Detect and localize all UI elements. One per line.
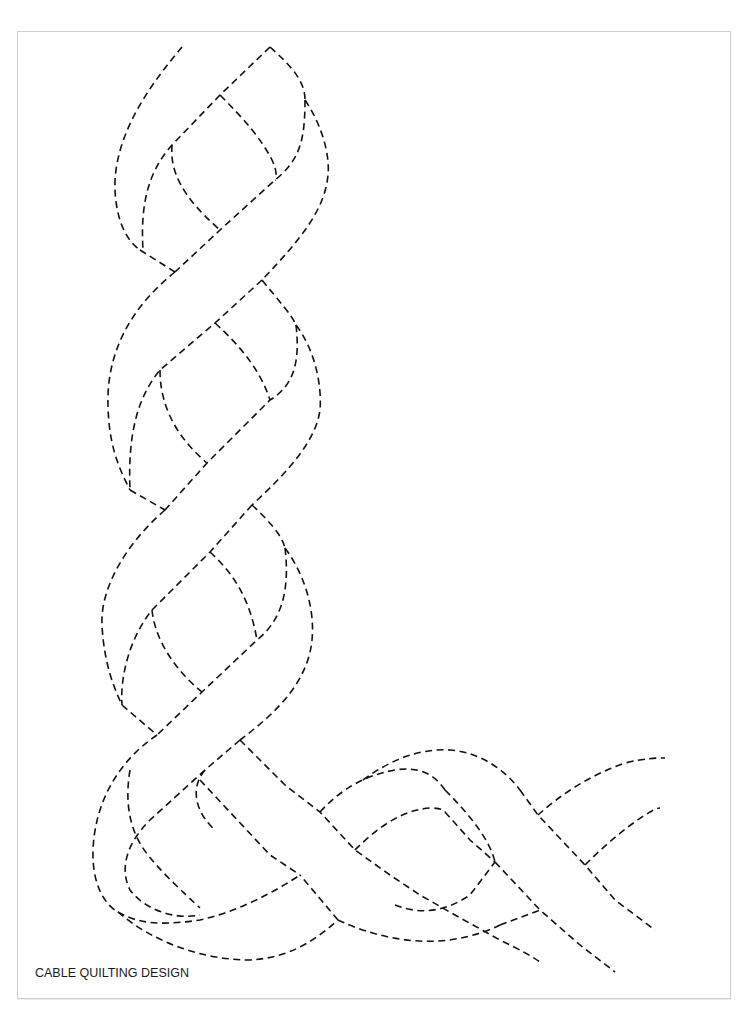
design-caption: CABLE QUILTING DESIGN [35, 966, 189, 980]
cable-segment-3 [102, 505, 313, 740]
cable-corner [93, 735, 540, 962]
cable-horizontal [320, 750, 665, 972]
cable-segment-1 [115, 47, 328, 280]
cable-segment-2 [108, 272, 320, 510]
cable-pattern-drawing [0, 0, 749, 1017]
